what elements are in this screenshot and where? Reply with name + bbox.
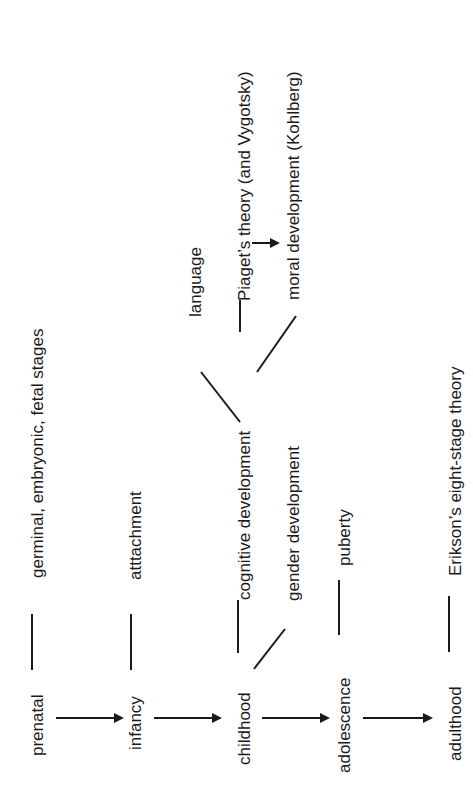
topic-language: language	[186, 247, 205, 317]
arrow-piaget-moral	[252, 238, 280, 248]
topic-erikson-theory: Erikson’s eight-stage theory	[446, 366, 465, 576]
arrow-childhood-adolescence	[262, 713, 330, 723]
topic-gender-development: gender development	[284, 446, 303, 601]
line-childhood-gender	[254, 629, 285, 669]
stage-infancy: infancy	[126, 696, 145, 750]
topic-moral-development: moral development (Kohlberg)	[284, 71, 303, 300]
line-cognitive-language	[201, 372, 240, 422]
topic-puberty: puberty	[335, 509, 354, 566]
topic-attachment: atttachment	[126, 491, 145, 580]
topic-cognitive-development: cognitive development	[235, 431, 254, 600]
arrow-infancy-childhood	[154, 713, 222, 723]
stage-adulthood: adulthood	[446, 686, 465, 761]
topic-germinal: germinal, embryonic, fetal stages	[28, 329, 47, 578]
arrow-adolescence-adulthood	[363, 713, 433, 723]
topic-piaget-theory: Piaget’s theory (and Vygotsky)	[235, 71, 254, 301]
arrow-prenatal-infancy	[56, 713, 124, 723]
development-diagram: prenatal infancy childhood adolescence a…	[0, 0, 473, 805]
stage-childhood: childhood	[235, 692, 254, 765]
line-cognitive-moral	[257, 316, 296, 372]
stage-adolescence: adolescence	[335, 678, 354, 773]
stage-prenatal: prenatal	[28, 695, 47, 756]
